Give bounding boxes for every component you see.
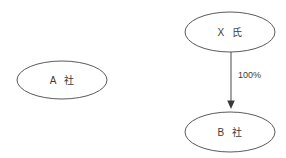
node-company-b[interactable]: B 社	[185, 112, 275, 152]
node-person-x[interactable]: X 氏	[185, 12, 275, 52]
ownership-arrowhead	[227, 101, 235, 110]
company-a-label: A 社	[50, 74, 76, 86]
person-x-label: X 氏	[218, 27, 245, 38]
company-b-label: B 社	[218, 126, 245, 138]
ownership-percentage-label: 100%	[238, 70, 261, 80]
node-company-a[interactable]: A 社	[17, 61, 107, 99]
edge-ownership-100: 100%	[227, 52, 261, 109]
ownership-diagram: A 社 X 氏 B 社 100%	[0, 0, 286, 158]
